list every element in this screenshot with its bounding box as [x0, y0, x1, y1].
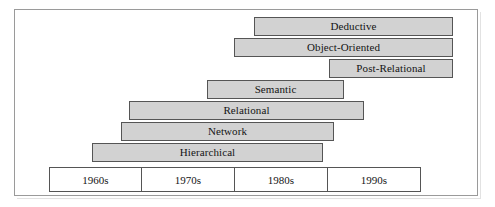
decade-cell: 1970s	[141, 167, 235, 192]
timeline-bar-label: Semantic	[255, 84, 297, 95]
timeline-bar: Network	[121, 122, 334, 141]
timeline-bar: Hierarchical	[92, 143, 323, 162]
timeline-bar-label: Hierarchical	[180, 147, 236, 158]
figure-frame: DeductiveObject-OrientedPost-RelationalS…	[14, 9, 478, 196]
decade-cell: 1980s	[234, 167, 328, 192]
timeline-bar: Semantic	[207, 80, 344, 99]
timeline-bar-label: Deductive	[330, 21, 376, 32]
timeline-bar-label: Network	[208, 126, 247, 137]
timeline-bar-label: Post-Relational	[356, 63, 425, 74]
decade-label: 1990s	[361, 173, 387, 185]
timeline-bar: Post-Relational	[329, 59, 453, 78]
timeline-bar: Object-Oriented	[234, 38, 453, 57]
timeline-figure: DeductiveObject-OrientedPost-RelationalS…	[0, 0, 495, 207]
decade-cell: 1990s	[327, 167, 421, 192]
decade-axis: 1960s1970s1980s1990s	[49, 167, 421, 192]
decade-label: 1980s	[268, 173, 294, 185]
timeline-bar-label: Object-Oriented	[307, 42, 380, 53]
decade-label: 1970s	[175, 173, 201, 185]
decade-label: 1960s	[82, 173, 108, 185]
decade-cell: 1960s	[49, 167, 142, 192]
timeline-bar: Deductive	[254, 17, 453, 36]
timeline-bar: Relational	[129, 101, 364, 120]
timeline-bar-label: Relational	[223, 105, 269, 116]
